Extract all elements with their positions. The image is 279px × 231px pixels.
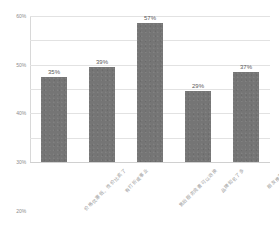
x-axis-category-label: 朋友推荐的 [266,167,279,190]
y-axis-tick-label: 60% [16,13,26,19]
bar-slot: 35% [30,16,78,162]
bar-value-label: 37% [240,64,252,70]
y-axis-tick-label: 20% [16,208,26,214]
bar-slot: 39% [78,16,126,162]
bar[interactable] [41,77,67,162]
x-axis-category-label: 售后服务完善可以退换 [177,167,218,208]
x-axis-category-label: 品牌知名了多 [219,167,245,193]
bar-slot: 29% [174,16,222,162]
bar-value-label: 57% [144,15,156,21]
y-axis-tick-label: 30% [16,159,26,165]
gridline: 0% [30,162,270,163]
bar-value-label: 39% [96,59,108,65]
bar-slot: 37% [222,16,270,162]
bar-value-label: 35% [48,69,60,75]
bar-slot: 57% [126,16,174,162]
plot-area: 0%10%20%30%40%50%60% 35%39%57%29%37% [30,16,270,162]
y-axis-tick-label: 40% [16,110,26,116]
bar[interactable] [89,67,115,162]
bar[interactable] [137,23,163,162]
bar-chart: 0%10%20%30%40%50%60% 35%39%57%29%37% 价格优… [0,0,279,231]
bar[interactable] [185,91,211,162]
y-axis-tick-label: 50% [16,62,26,68]
bar[interactable] [233,72,259,162]
x-axis-category-label: 价格优惠低、性价比高了 [83,167,128,212]
bar-value-label: 29% [192,83,204,89]
